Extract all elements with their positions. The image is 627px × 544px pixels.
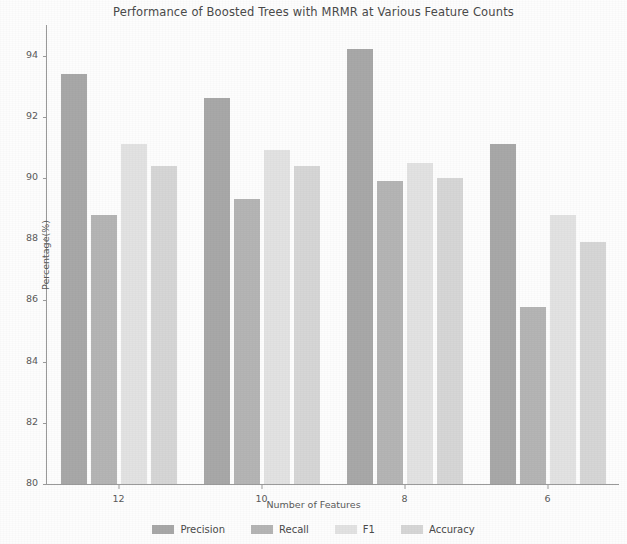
x-axis-tick-mark (547, 485, 548, 489)
bar-recall-8 (377, 181, 403, 484)
y-axis-tick-label: 94 (26, 49, 38, 60)
y-axis-tick-mark (43, 117, 47, 118)
x-axis-tick-mark (261, 485, 262, 489)
y-axis-tick-mark (43, 423, 47, 424)
bar-f1-8 (407, 163, 433, 484)
bar-recall-6 (520, 307, 546, 484)
x-axis-label: Number of Features (0, 499, 627, 510)
legend-swatch-icon (152, 525, 174, 534)
plot-area: Percentage(%) 8082848688909294121086 (46, 25, 619, 485)
bar-precision-12 (61, 74, 87, 484)
y-axis-tick-mark (43, 300, 47, 301)
y-axis-tick-mark (43, 362, 47, 363)
legend-label: Precision (180, 524, 225, 535)
bar-accuracy-10 (294, 166, 320, 484)
bar-accuracy-6 (580, 242, 606, 484)
legend-swatch-icon (335, 525, 357, 534)
bar-f1-12 (121, 144, 147, 484)
legend-label: Recall (279, 524, 309, 535)
chart-legend: PrecisionRecallF1Accuracy (0, 524, 627, 535)
bar-precision-8 (347, 49, 373, 484)
bar-recall-12 (91, 215, 117, 484)
y-axis-tick-label: 90 (26, 171, 38, 182)
chart-figure: Performance of Boosted Trees with MRMR a… (0, 0, 627, 544)
y-axis-tick-label: 88 (26, 232, 38, 243)
y-axis-tick-mark (43, 178, 47, 179)
bar-accuracy-12 (151, 166, 177, 484)
legend-swatch-icon (251, 525, 273, 534)
plot-inner (47, 25, 619, 484)
y-axis-tick-label: 92 (26, 110, 38, 121)
chart-title: Performance of Boosted Trees with MRMR a… (0, 5, 627, 19)
y-axis-tick-label: 82 (26, 416, 38, 427)
legend-label: F1 (363, 524, 375, 535)
legend-item-precision[interactable]: Precision (152, 524, 225, 535)
x-axis-tick-mark (118, 485, 119, 489)
bar-recall-10 (234, 199, 260, 484)
legend-swatch-icon (401, 525, 423, 534)
legend-item-f1[interactable]: F1 (335, 524, 375, 535)
legend-item-recall[interactable]: Recall (251, 524, 309, 535)
bar-f1-6 (550, 215, 576, 484)
bar-accuracy-8 (437, 178, 463, 484)
y-axis-tick-mark (43, 56, 47, 57)
bar-precision-6 (490, 144, 516, 484)
x-axis-tick-mark (404, 485, 405, 489)
bar-precision-10 (204, 98, 230, 484)
y-axis-tick-mark (43, 484, 47, 485)
y-axis-tick-label: 80 (26, 477, 38, 488)
y-axis-tick-label: 84 (26, 355, 38, 366)
y-axis-tick-mark (43, 239, 47, 240)
legend-item-accuracy[interactable]: Accuracy (401, 524, 475, 535)
legend-label: Accuracy (429, 524, 475, 535)
y-axis-tick-label: 86 (26, 293, 38, 304)
bar-f1-10 (264, 150, 290, 484)
